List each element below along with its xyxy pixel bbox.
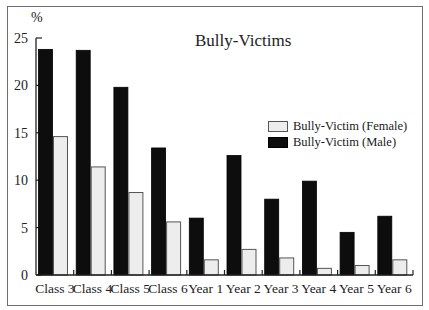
- bar-female: [91, 167, 105, 275]
- bar-male: [265, 199, 279, 275]
- legend-item-male: Bully-Victim (Male): [268, 134, 407, 150]
- y-tick-label: 20: [14, 78, 28, 93]
- bar-male: [39, 49, 53, 275]
- x-tick-label: Year 4: [301, 281, 336, 296]
- x-tick-label: Year 5: [339, 281, 374, 296]
- legend: Bully-Victim (Female) Bully-Victim (Male…: [268, 118, 407, 150]
- y-axis-unit-label: %: [31, 10, 43, 26]
- y-tick-label: 15: [14, 126, 28, 141]
- bar-male: [378, 216, 392, 275]
- bar-female: [204, 260, 218, 275]
- bar-female: [393, 260, 407, 275]
- x-tick-label: Year 2: [226, 281, 261, 296]
- bar-female: [355, 266, 369, 275]
- bar-male: [302, 181, 316, 275]
- bar-male: [189, 218, 203, 275]
- x-tick-label: Class 6: [148, 281, 188, 296]
- legend-label-male: Bully-Victim (Male): [293, 134, 396, 150]
- x-tick-label: Class 4: [73, 281, 113, 296]
- bar-male: [76, 50, 90, 275]
- bar-female: [242, 249, 256, 275]
- y-tick-label: 5: [21, 221, 28, 236]
- bar-female: [129, 193, 143, 275]
- bar-male: [114, 87, 128, 275]
- y-tick-label: 10: [14, 173, 28, 188]
- x-tick-label: Year 6: [377, 281, 412, 296]
- bar-female: [54, 137, 68, 275]
- bar-male: [340, 232, 354, 275]
- x-tick-label: Class 3: [35, 281, 75, 296]
- bar-female: [317, 268, 331, 275]
- bar-female: [167, 222, 181, 275]
- legend-item-female: Bully-Victim (Female): [268, 118, 407, 134]
- x-tick-label: Year 1: [188, 281, 223, 296]
- bar-female: [280, 258, 294, 275]
- x-tick-label: Year 3: [264, 281, 299, 296]
- y-tick-label: 25: [14, 31, 28, 46]
- bar-male: [227, 156, 241, 275]
- legend-swatch-male: [268, 137, 288, 148]
- legend-swatch-female: [268, 121, 288, 132]
- x-tick-label: Class 5: [111, 281, 151, 296]
- chart-title: Bully-Victims: [195, 31, 291, 51]
- legend-label-female: Bully-Victim (Female): [293, 118, 407, 134]
- y-tick-label: 0: [21, 268, 28, 283]
- bar-male: [152, 148, 166, 275]
